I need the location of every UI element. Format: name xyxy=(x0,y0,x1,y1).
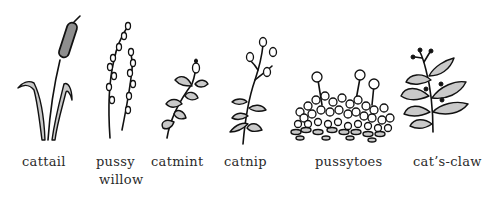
plant-illustration: cattail pussy willow catmint catnip puss… xyxy=(0,0,496,201)
label-cattail: cattail xyxy=(22,154,66,170)
label-catmint: catmint xyxy=(151,154,203,170)
cats-claw-drawing xyxy=(401,48,468,132)
catnip-drawing xyxy=(230,38,277,145)
label-pussy-willow-line2: willow xyxy=(99,172,143,188)
pussytoes-drawing xyxy=(291,70,394,142)
catmint-drawing xyxy=(162,59,208,138)
label-catnip: catnip xyxy=(224,154,267,170)
pussy-willow-drawing xyxy=(107,23,136,139)
label-pussytoes: pussytoes xyxy=(315,154,383,170)
cattail-drawing xyxy=(18,16,80,140)
label-cats-claw: cat’s-claw xyxy=(413,154,482,170)
label-pussy-willow-line1: pussy xyxy=(96,154,135,170)
